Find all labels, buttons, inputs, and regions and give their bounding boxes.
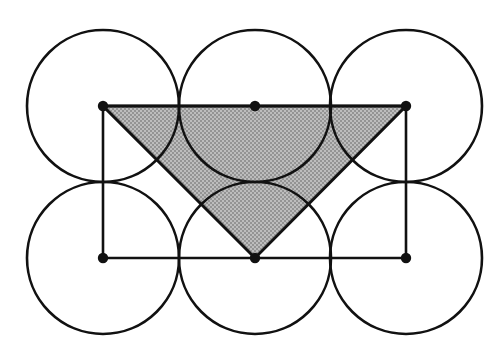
dot-top-right [401, 101, 411, 111]
dot-top-left [98, 101, 108, 111]
figure-canvas [0, 0, 497, 358]
dot-bottom-middle [250, 253, 260, 263]
geometry-diagram [0, 0, 497, 358]
dot-bottom-left [98, 253, 108, 263]
dot-bottom-right [401, 253, 411, 263]
dot-top-middle [250, 101, 260, 111]
